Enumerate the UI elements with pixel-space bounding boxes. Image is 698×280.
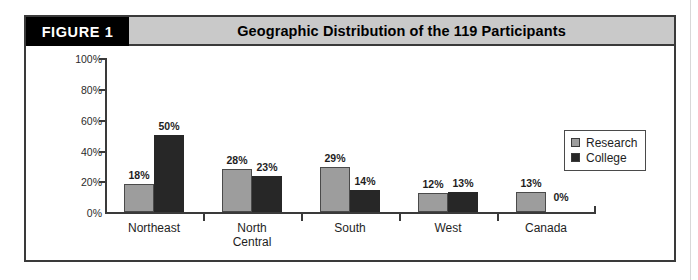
page-edge-artifact	[690, 0, 691, 280]
legend-item-research[interactable]: Research	[571, 135, 637, 150]
legend-label-research: Research	[586, 137, 637, 149]
bar-label-college-south: 14%	[343, 176, 387, 187]
x-category-label-canada: Canada	[471, 222, 621, 236]
legend-item-college[interactable]: College	[571, 150, 637, 165]
figure-title-band: Geographic Distribution of the 119 Parti…	[129, 17, 674, 46]
figure-container: FIGURE 1 Geographic Distribution of the …	[24, 15, 676, 262]
bar-label-college-canada: 0%	[539, 192, 583, 203]
chart-legend: Research College	[564, 130, 646, 171]
bar-research-north-central[interactable]	[222, 169, 252, 212]
figure-header: FIGURE 1 Geographic Distribution of the …	[26, 17, 674, 46]
bar-research-northeast[interactable]	[124, 184, 154, 212]
x-category-label-north-central-line2: Central	[233, 235, 272, 249]
legend-swatch-research-icon	[571, 138, 580, 147]
bar-label-research-south: 29%	[313, 153, 357, 164]
legend-swatch-college-icon	[571, 153, 580, 162]
bar-research-south[interactable]	[320, 167, 350, 212]
legend-label-college: College	[586, 152, 627, 164]
bar-label-college-north-central: 23%	[245, 162, 289, 173]
bar-college-west[interactable]	[448, 192, 478, 212]
bar-label-research-canada: 13%	[509, 178, 553, 189]
bar-label-college-northeast: 50%	[147, 121, 191, 132]
figure-number-tag: FIGURE 1	[26, 17, 129, 46]
bar-college-north-central[interactable]	[252, 176, 282, 212]
bar-label-research-northeast: 18%	[117, 170, 161, 181]
bar-label-college-west: 13%	[441, 178, 485, 189]
x-category-label-north-central-line1: North	[237, 221, 266, 235]
figure-title: Geographic Distribution of the 119 Parti…	[237, 23, 566, 39]
bar-college-south[interactable]	[350, 190, 380, 212]
bar-research-west[interactable]	[418, 193, 448, 212]
plot-area: 100% 80% 60% 40% 20% 0% 18% 50%	[26, 46, 674, 260]
